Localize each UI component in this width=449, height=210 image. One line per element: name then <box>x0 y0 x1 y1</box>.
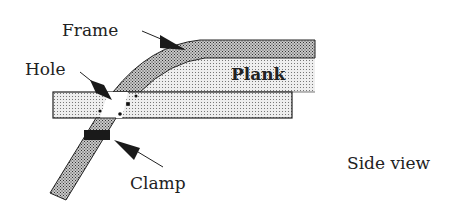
view-label: Side view <box>347 155 430 172</box>
plank-label: Plank <box>231 66 285 83</box>
hole-label: Hole <box>25 61 66 78</box>
clamp-arrow <box>114 140 163 167</box>
clamp-label: Clamp <box>130 175 186 192</box>
frame-label: Frame <box>62 22 118 39</box>
base-bar <box>53 92 292 118</box>
clamp-block <box>84 130 110 140</box>
frame-arrow <box>142 31 186 50</box>
